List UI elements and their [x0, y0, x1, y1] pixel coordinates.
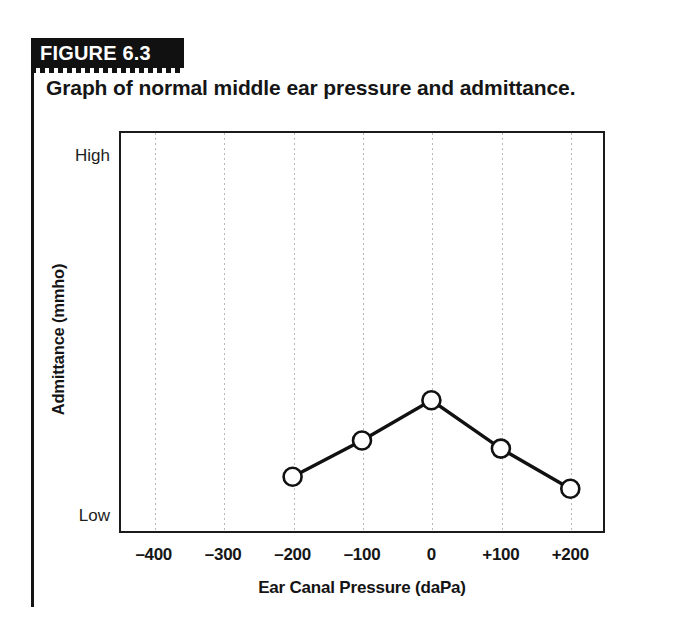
- gridline-x: [432, 133, 433, 531]
- y-axis-tick-high: High: [30, 146, 110, 166]
- x-axis-tick-label: –100: [327, 545, 397, 565]
- gridline-x: [294, 133, 295, 531]
- chart-area: High Low Admittance (mmho) –400–300–200–…: [0, 0, 678, 627]
- y-axis-title: Admittance (mmho): [49, 225, 68, 455]
- x-axis-tick-label: –200: [258, 545, 328, 565]
- x-axis-tick-label: –300: [188, 545, 258, 565]
- gridline-x: [363, 133, 364, 531]
- figure-root: FIGURE 6.3 Graph of normal middle ear pr…: [0, 0, 678, 627]
- y-axis-tick-low: Low: [30, 506, 110, 526]
- gridline-x: [571, 133, 572, 531]
- x-axis-tick-label: +200: [535, 545, 605, 565]
- plot-frame: [119, 131, 605, 533]
- x-axis-tick-label: 0: [396, 545, 466, 565]
- x-axis-tick-label: +100: [466, 545, 536, 565]
- x-axis-title: Ear Canal Pressure (daPa): [119, 578, 605, 598]
- gridline-x: [502, 133, 503, 531]
- gridline-x: [224, 133, 225, 531]
- x-axis-tick-label: –400: [119, 545, 189, 565]
- gridline-x: [155, 133, 156, 531]
